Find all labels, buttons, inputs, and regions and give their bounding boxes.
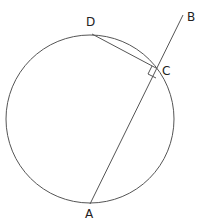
geometry-diagram: D B C A [0, 0, 204, 220]
circle [6, 35, 174, 203]
label-d: D [86, 15, 95, 29]
line-ab [90, 15, 183, 204]
label-b: B [187, 10, 195, 24]
label-c: C [162, 64, 170, 78]
label-a: A [85, 207, 94, 220]
chord-dc [92, 34, 156, 68]
